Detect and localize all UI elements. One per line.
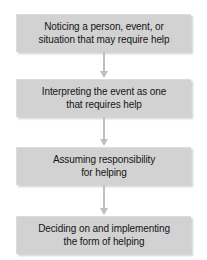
flowchart-step-2: Interpreting the event as onethat requir… (16, 79, 191, 117)
flowchart-step-3: Assuming responsibilityfor helping (16, 147, 191, 185)
arrow-shaft-icon (103, 117, 105, 140)
arrow-head-down-icon (100, 139, 108, 146)
arrow-step-2-to-step-3 (100, 117, 109, 146)
flowchart-step-4-line-1: Deciding on and implementing (38, 223, 170, 234)
flowchart-step-1-line-1: Noticing a person, event, or (44, 21, 164, 32)
arrow-shaft-icon (103, 52, 105, 72)
flowchart-step-2-label: Interpreting the event as onethat requir… (42, 86, 166, 111)
flowchart-diagram: Noticing a person, event, orsituation th… (0, 0, 207, 260)
arrow-step-1-to-step-2 (100, 52, 109, 78)
flowchart-step-3-label: Assuming responsibilityfor helping (53, 154, 155, 179)
arrow-head-down-icon (100, 71, 108, 78)
arrow-head-down-icon (100, 208, 108, 215)
flowchart-step-4: Deciding on and implementingthe form of … (16, 216, 191, 254)
flowchart-step-1: Noticing a person, event, orsituation th… (16, 14, 191, 52)
arrow-step-3-to-step-4 (100, 185, 109, 215)
flowchart-step-4-line-2: the form of helping (64, 236, 145, 247)
flowchart-step-4-label: Deciding on and implementingthe form of … (38, 223, 170, 248)
flowchart-step-3-line-2: for helping (81, 167, 127, 178)
flowchart-step-2-line-1: Interpreting the event as one (42, 86, 166, 97)
flowchart-step-3-line-1: Assuming responsibility (53, 154, 155, 165)
flowchart-step-1-label: Noticing a person, event, orsituation th… (39, 21, 170, 46)
flowchart-step-1-line-2: situation that may require help (39, 34, 170, 45)
flowchart-step-2-line-2: that requires help (66, 99, 141, 110)
arrow-shaft-icon (103, 185, 105, 209)
